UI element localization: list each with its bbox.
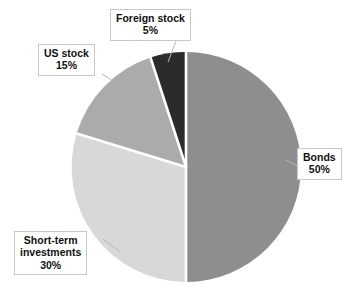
callout-us-stock-label: US stock bbox=[44, 47, 89, 59]
callout-bonds-percent: 50% bbox=[303, 163, 336, 175]
callout-bonds-label: Bonds bbox=[303, 151, 336, 163]
callout-us-stock-percent: 15% bbox=[44, 59, 89, 71]
pie-slice-bonds bbox=[186, 52, 301, 282]
callout-short-term-investments-label-line2: investments bbox=[20, 246, 81, 258]
callout-us-stock: US stock 15% bbox=[38, 44, 95, 76]
callout-short-term-investments-percent: 30% bbox=[20, 259, 81, 271]
callout-short-term-investments-label-line1: Short-term bbox=[20, 234, 81, 246]
callout-short-term-investments: Short-term investments 30% bbox=[14, 231, 87, 275]
callout-foreign-stock-label: Foreign stock bbox=[116, 12, 185, 24]
pie-chart: Foreign stock 5% US stock 15% Bonds 50% … bbox=[0, 0, 354, 302]
callout-bonds: Bonds 50% bbox=[297, 148, 342, 180]
callout-foreign-stock-percent: 5% bbox=[116, 24, 185, 36]
callout-foreign-stock: Foreign stock 5% bbox=[110, 9, 191, 41]
